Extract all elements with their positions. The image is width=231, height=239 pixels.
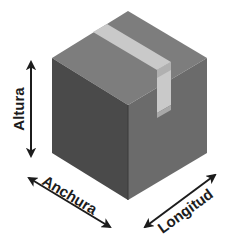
box-shape bbox=[52, 11, 207, 200]
figure-container: Altura Anchura Longitud bbox=[0, 0, 231, 239]
length-dimension: Longitud bbox=[145, 175, 216, 236]
height-label: Altura bbox=[10, 87, 27, 131]
length-label: Longitud bbox=[154, 185, 216, 236]
box-diagram: Altura Anchura Longitud bbox=[0, 0, 231, 239]
height-dimension: Altura bbox=[10, 62, 31, 156]
width-label: Anchura bbox=[39, 172, 100, 218]
